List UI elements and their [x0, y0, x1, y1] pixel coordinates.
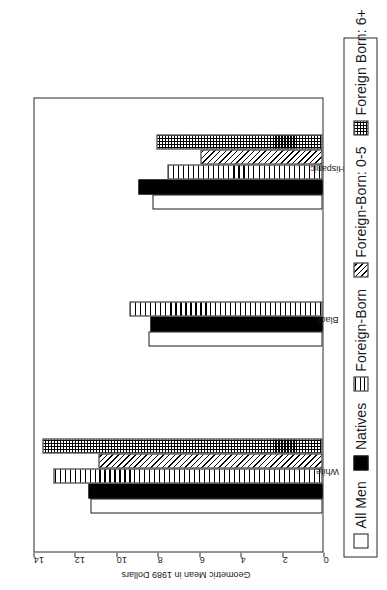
bar-white-natives: [88, 483, 322, 498]
chart-legend: All MenNativesForeign-BornForeign-Born: …: [343, 37, 377, 557]
legend-item-foreign-born[interactable]: Foreign-Born: [352, 288, 368, 391]
bar-chart-figure: Geometric Mean in 1989 Dollars 024681012…: [0, 0, 387, 590]
legend-item-natives[interactable]: Natives: [352, 402, 368, 469]
bar-white-foreign-born-0-5: [98, 453, 322, 468]
axis-tick-label: 8: [157, 555, 162, 565]
bar-hispanic-foreign-born: [167, 164, 322, 179]
legend-swatch-diagonal-hatch-icon: [353, 262, 368, 277]
figure-rotation-wrapper: Geometric Mean in 1989 Dollars 024681012…: [0, 0, 387, 590]
axis-tick-label: 6: [199, 555, 204, 565]
bars-layer: [34, 98, 322, 551]
bar-white-foreign-born-6: [42, 438, 322, 453]
bar-hispanic-foreign-born-0-5: [200, 149, 322, 164]
legend-label: All Men: [352, 481, 368, 528]
bar-white-foreign-born: [53, 468, 322, 483]
bar-hispanic-all-men: [152, 194, 322, 209]
legend-item-foreign-born-6[interactable]: Foreign Born: 6+: [352, 9, 368, 135]
plot-panel: [33, 97, 323, 552]
bar-white-all-men: [90, 498, 322, 513]
legend-label: Foreign-Born: [352, 288, 368, 371]
category-label-white: White: [315, 466, 338, 476]
bar-hispanic-natives: [138, 179, 322, 194]
legend-label: Foreign Born: 6+: [352, 9, 368, 115]
legend-item-all-men[interactable]: All Men: [352, 481, 368, 548]
axis-tick-label: 10: [116, 555, 126, 565]
axis-tick-label: 14: [33, 555, 43, 565]
legend-swatch-solid-icon: [353, 455, 368, 470]
legend-swatch-empty-icon: [353, 533, 368, 548]
axis-tick-label: 12: [74, 555, 84, 565]
axis-tick-label: 0: [323, 555, 328, 565]
category-label-black: Black: [316, 315, 338, 325]
bar-hispanic-foreign-born-6: [156, 134, 322, 149]
legend-label: Natives: [352, 402, 368, 449]
axis-tick-label: 4: [240, 555, 245, 565]
category-label-hispanic: Hispanic: [310, 163, 345, 173]
legend-item-foreign-born-0-5[interactable]: Foreign-Born: 0-5: [352, 146, 368, 277]
bar-black-foreign-born: [129, 301, 322, 316]
legend-swatch-dots-icon: [353, 120, 368, 135]
legend-swatch-horizontal-lines-icon: [353, 376, 368, 391]
bar-black-natives: [150, 316, 322, 331]
bar-black-all-men: [148, 331, 322, 346]
value-axis: 02468101214: [33, 552, 323, 590]
axis-tick-label: 2: [282, 555, 287, 565]
legend-label: Foreign-Born: 0-5: [352, 146, 368, 257]
chart-page: Geometric Mean in 1989 Dollars 024681012…: [0, 0, 387, 590]
